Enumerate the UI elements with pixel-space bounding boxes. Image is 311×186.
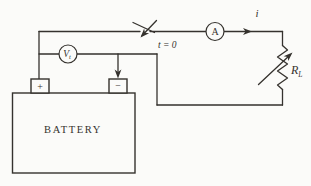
current-label: i [255, 7, 258, 19]
ammeter-label: A [211, 26, 219, 37]
circuit-figure: t = 0 A i RL Vt BATTERY + − [0, 0, 311, 186]
positive-terminal-label: + [37, 81, 43, 92]
resistor-subscript-text: L [297, 70, 302, 79]
switch-time-label: t = 0 [158, 40, 177, 50]
voltmeter-subscript-text: t [69, 53, 71, 60]
negative-terminal-label: − [115, 80, 121, 91]
battery-label: BATTERY [44, 124, 102, 135]
